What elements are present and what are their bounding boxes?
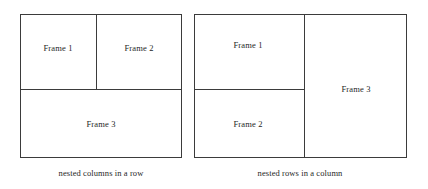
- diagram-nested-columns-in-a-row: [20, 14, 182, 158]
- right-diagram-horizontal-divider: [194, 89, 305, 90]
- left-diagram-frame-1-label: Frame 1: [43, 44, 72, 53]
- right-diagram-caption: nested rows in a column: [258, 169, 343, 178]
- left-diagram-horizontal-divider: [20, 89, 182, 90]
- left-diagram-frame-3-label: Frame 3: [86, 120, 115, 129]
- right-diagram-vertical-divider: [304, 14, 305, 158]
- right-diagram-frame-1-label: Frame 1: [233, 41, 262, 50]
- right-diagram-frame-2-label: Frame 2: [233, 120, 262, 129]
- left-diagram-caption: nested columns in a row: [59, 169, 144, 178]
- figure-canvas: Frame 1 Frame 2 Frame 3 nested columns i…: [0, 0, 428, 189]
- right-diagram-frame-3-label: Frame 3: [341, 85, 370, 94]
- left-diagram-frame-2-label: Frame 2: [124, 44, 153, 53]
- diagram-nested-rows-in-a-column: [194, 14, 407, 158]
- left-diagram-vertical-divider: [96, 14, 97, 90]
